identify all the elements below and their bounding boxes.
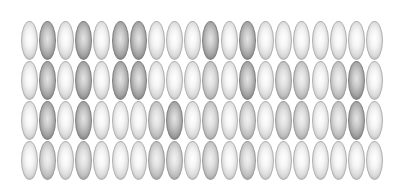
ellipse-cell xyxy=(347,60,365,100)
ellipse-cell xyxy=(20,100,38,140)
ellipse-shape xyxy=(293,101,310,140)
ellipse-cell xyxy=(275,140,293,180)
ellipse-cell xyxy=(256,100,274,140)
ellipse-cell xyxy=(202,140,220,180)
ellipse-cell xyxy=(293,60,311,100)
ellipse-shape xyxy=(330,101,347,140)
ellipse-shape xyxy=(184,101,201,140)
ellipse-cell xyxy=(220,140,238,180)
ellipse-cell xyxy=(111,100,129,140)
ellipse-cell xyxy=(129,20,147,60)
ellipse-shape xyxy=(293,21,310,60)
ellipse-cell xyxy=(256,140,274,180)
ellipse-shape xyxy=(257,141,274,180)
ellipse-shape xyxy=(166,61,183,100)
ellipse-shape xyxy=(75,141,92,180)
ellipse-grid-figure xyxy=(0,0,403,190)
ellipse-shape xyxy=(348,21,365,60)
ellipse-cell xyxy=(311,20,329,60)
ellipse-cell xyxy=(147,60,165,100)
ellipse-cell xyxy=(347,20,365,60)
ellipse-cell xyxy=(202,60,220,100)
ellipse-shape xyxy=(112,101,129,140)
ellipse-shape xyxy=(39,21,56,60)
ellipse-cell xyxy=(184,140,202,180)
ellipse-cell xyxy=(147,20,165,60)
ellipse-cell xyxy=(56,140,74,180)
ellipse-shape xyxy=(202,141,219,180)
ellipse-cell xyxy=(56,20,74,60)
ellipse-shape xyxy=(275,61,292,100)
ellipse-shape xyxy=(239,101,256,140)
ellipse-shape xyxy=(202,61,219,100)
ellipse-shape xyxy=(112,61,129,100)
ellipse-shape xyxy=(93,101,110,140)
ellipse-shape xyxy=(275,21,292,60)
ellipse-shape xyxy=(21,21,38,60)
ellipse-shape xyxy=(148,141,165,180)
ellipse-shape xyxy=(75,61,92,100)
ellipse-cell xyxy=(256,20,274,60)
ellipse-cell xyxy=(220,100,238,140)
ellipse-shape xyxy=(312,141,329,180)
ellipse-shape xyxy=(348,101,365,140)
ellipse-cell xyxy=(329,60,347,100)
ellipse-shape xyxy=(112,21,129,60)
ellipse-shape xyxy=(221,101,238,140)
ellipse-shape xyxy=(239,61,256,100)
ellipse-shape xyxy=(312,61,329,100)
ellipse-cell xyxy=(75,20,93,60)
ellipse-shape xyxy=(166,141,183,180)
ellipse-cell xyxy=(275,60,293,100)
ellipse-cell xyxy=(129,100,147,140)
ellipse-shape xyxy=(75,101,92,140)
ellipse-cell xyxy=(202,20,220,60)
ellipse-cell xyxy=(93,100,111,140)
ellipse-cell xyxy=(111,60,129,100)
ellipse-shape xyxy=(366,61,383,100)
ellipse-cell xyxy=(366,20,384,60)
ellipse-cell xyxy=(311,60,329,100)
ellipse-cell xyxy=(147,140,165,180)
ellipse-cell xyxy=(275,20,293,60)
ellipse-cell xyxy=(184,60,202,100)
ellipse-shape xyxy=(57,141,74,180)
ellipse-shape xyxy=(57,101,74,140)
ellipse-cell xyxy=(20,20,38,60)
ellipse-cell xyxy=(38,100,56,140)
ellipse-cell xyxy=(111,20,129,60)
ellipse-shape xyxy=(366,141,383,180)
ellipse-cell xyxy=(93,20,111,60)
ellipse-cell xyxy=(293,100,311,140)
ellipse-cell xyxy=(311,140,329,180)
ellipse-cell xyxy=(56,100,74,140)
ellipse-shape xyxy=(275,141,292,180)
ellipse-cell xyxy=(202,100,220,140)
ellipse-shape xyxy=(330,141,347,180)
ellipse-cell xyxy=(329,140,347,180)
ellipse-cell xyxy=(293,140,311,180)
ellipse-cell xyxy=(147,100,165,140)
ellipse-cell xyxy=(347,140,365,180)
ellipse-shape xyxy=(39,101,56,140)
ellipse-cell xyxy=(238,140,256,180)
ellipse-cell xyxy=(329,100,347,140)
ellipse-shape xyxy=(293,141,310,180)
ellipse-cell xyxy=(238,100,256,140)
ellipse-cell xyxy=(20,60,38,100)
ellipse-shape xyxy=(21,61,38,100)
ellipse-shape xyxy=(130,101,147,140)
ellipse-shape xyxy=(202,21,219,60)
ellipse-shape xyxy=(184,21,201,60)
ellipse-shape xyxy=(348,141,365,180)
ellipse-cell xyxy=(238,60,256,100)
ellipse-shape xyxy=(148,21,165,60)
ellipse-cell xyxy=(220,60,238,100)
ellipse-cell xyxy=(366,60,384,100)
ellipse-cell xyxy=(38,60,56,100)
ellipse-shape xyxy=(366,21,383,60)
ellipse-shape xyxy=(330,61,347,100)
ellipse-cell xyxy=(75,140,93,180)
ellipse-cell xyxy=(166,60,184,100)
ellipse-shape xyxy=(257,101,274,140)
